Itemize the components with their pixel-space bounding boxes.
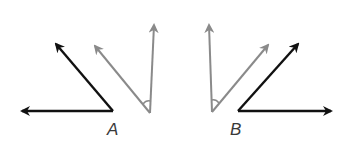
angle-diagram: A B (0, 0, 340, 151)
angle-b-gray (209, 25, 268, 112)
vertex-label-b: B (230, 121, 241, 138)
ray-b-gray-vertical (209, 25, 212, 112)
ray-a-gray-diagonal (95, 46, 150, 113)
angle-arc-a (143, 101, 151, 104)
ray-b-gray-diagonal (212, 45, 268, 112)
angle-b-black (238, 44, 331, 111)
diagram-svg (0, 0, 340, 151)
ray-a-black-diagonal (56, 44, 113, 111)
angle-a-black (22, 44, 113, 111)
ray-a-gray-vertical (150, 25, 154, 113)
vertex-label-a: A (107, 121, 118, 138)
ray-b-black-diagonal (238, 44, 298, 111)
